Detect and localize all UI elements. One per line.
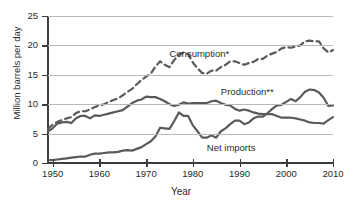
x-tick-label-1970: 1970	[126, 169, 166, 179]
series-line-netimports	[48, 90, 333, 161]
x-tick-1970	[146, 159, 147, 167]
y-axis-title: Million barrels per day	[11, 0, 25, 176]
gridline-y-5	[48, 134, 333, 135]
x-tick-label-2000: 2000	[266, 169, 306, 179]
gridline-y-15	[48, 75, 333, 76]
y-tick-label-5: 5	[33, 129, 38, 139]
x-tick-label-1990: 1990	[220, 169, 260, 179]
y-tick-20	[42, 45, 47, 46]
x-tick-2000	[286, 159, 287, 167]
gridline-y-25	[48, 16, 333, 17]
x-tick-label-1950: 1950	[33, 169, 73, 179]
y-tick-10	[42, 104, 47, 105]
x-tick-1980	[193, 159, 194, 167]
y-tick-label-20: 20	[27, 40, 38, 50]
x-tick-1950	[53, 159, 54, 167]
y-tick-label-15: 15	[27, 70, 38, 80]
series-label-production: Production**	[221, 86, 274, 97]
y-tick-label-25: 25	[27, 11, 38, 21]
series-line-production	[48, 97, 333, 132]
x-tick-1990	[240, 159, 241, 167]
y-tick-25	[42, 16, 47, 17]
x-tick-label-2010: 2010	[313, 169, 353, 179]
y-tick-0	[42, 163, 47, 164]
x-tick-2010	[333, 159, 334, 167]
series-lines	[48, 16, 333, 163]
gridline-y-20	[48, 45, 333, 46]
x-tick-1960	[99, 159, 100, 167]
oil-chart-figure: Million barrels per day Year 05101520251…	[0, 0, 362, 206]
x-tick-label-1960: 1960	[79, 169, 119, 179]
y-tick-15	[42, 75, 47, 76]
series-label-consumption: Consumption*	[169, 48, 229, 59]
gridline-y-10	[48, 104, 333, 105]
series-label-netimports: Net imports	[207, 142, 256, 153]
x-tick-label-1980: 1980	[173, 169, 213, 179]
x-axis-title: Year	[0, 186, 362, 197]
y-tick-label-0: 0	[33, 158, 38, 168]
plot-area	[48, 16, 333, 163]
y-tick-5	[42, 134, 47, 135]
y-tick-label-10: 10	[27, 99, 38, 109]
